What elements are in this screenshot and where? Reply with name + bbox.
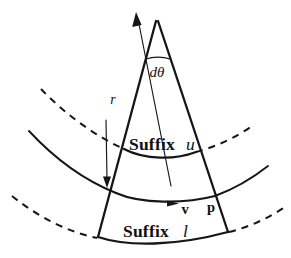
- angle-label: dθ: [150, 64, 166, 80]
- pressure-label: p: [207, 199, 215, 215]
- diagram-canvas: dθ r Suffix u v p Suffix l: [0, 0, 291, 258]
- angle-arc: [146, 57, 170, 59]
- radius-arrowhead: [132, 12, 141, 27]
- suffix-upper-symbol: u: [186, 134, 195, 154]
- velocity-label: v: [181, 201, 189, 217]
- suffix-lower-word: Suffix: [123, 221, 169, 241]
- dashed-arc-lower-right: [229, 207, 285, 232]
- radius-measure-shaft: [106, 120, 107, 180]
- radius-measure-arrowhead: [103, 177, 111, 189]
- sector-middle-arc: [116, 193, 215, 202]
- sector-diagram-svg: dθ r Suffix u v p Suffix l: [0, 0, 291, 258]
- dashed-arc-lower-left: [12, 196, 97, 238]
- stream-arc-left: [29, 131, 116, 193]
- stream-arc-right: [215, 166, 268, 196]
- suffix-upper-word: Suffix: [129, 134, 175, 154]
- suffix-lower-symbol: l: [183, 221, 188, 241]
- radius-label: r: [110, 92, 116, 107]
- dashed-arc-upper-right: [196, 126, 252, 152]
